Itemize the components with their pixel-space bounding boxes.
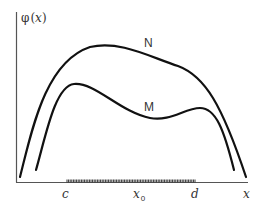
x-axis-label: x <box>243 187 250 201</box>
curve-n-label: N <box>144 36 153 50</box>
function-diagram: φ(x) N M c x0 d x <box>0 0 262 205</box>
curve-m-label: M <box>144 100 154 114</box>
interval-hatch <box>67 180 195 183</box>
curve-m <box>36 84 234 170</box>
interval-end-label: d <box>191 187 199 201</box>
interval-start-label: c <box>62 187 69 201</box>
interval-mid-label: x0 <box>133 187 146 203</box>
y-axis-label: φ(x) <box>21 11 47 25</box>
diagram-canvas: φ(x) N M c x0 d x <box>0 0 262 205</box>
